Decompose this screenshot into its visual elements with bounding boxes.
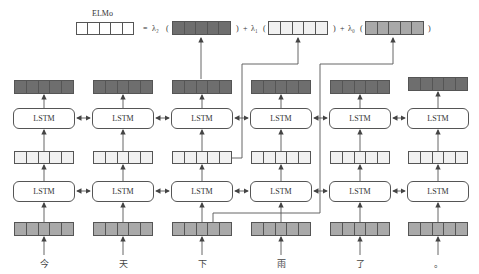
hidden-state-vector — [93, 151, 153, 164]
hidden-state-vector — [408, 151, 468, 164]
upper-lstm-cell: LSTM — [171, 108, 233, 129]
hidden-state-vector — [251, 151, 311, 164]
input-embedding-vector — [251, 222, 311, 236]
top-output-vector — [14, 80, 74, 94]
top-output-vector — [93, 80, 153, 94]
input-token: 天 — [119, 257, 128, 270]
top-output-vector — [408, 77, 468, 91]
hidden-state-vector — [172, 151, 232, 164]
lambda-0-coefficient: λ₀ — [348, 24, 355, 33]
input-token: 今 — [40, 257, 49, 270]
upper-lstm-cell: LSTM — [250, 108, 312, 129]
input-token: 下 — [198, 257, 207, 270]
input-token: 雨 — [277, 257, 286, 270]
input-embedding-vector — [172, 222, 232, 236]
elmo-label: ELMo — [92, 9, 113, 18]
plus-sign-2: + — [340, 24, 345, 33]
lower-lstm-cell: LSTM — [250, 181, 312, 202]
upper-lstm-cell: LSTM — [92, 108, 154, 129]
lower-lstm-cell: LSTM — [92, 181, 154, 202]
input-embedding-vector — [330, 222, 390, 236]
upper-lstm-cell: LSTM — [13, 108, 75, 129]
input-token: 了 — [356, 257, 365, 270]
lower-lstm-cell: LSTM — [171, 181, 233, 202]
lower-lstm-cell: LSTM — [329, 181, 391, 202]
open-paren-2: ( — [263, 24, 266, 33]
layer-0-vector — [365, 21, 424, 35]
close-paren-1: ) — [236, 24, 239, 33]
open-paren-3: ( — [360, 24, 363, 33]
input-embedding-vector — [14, 222, 74, 236]
top-output-vector — [172, 80, 232, 94]
input-embedding-vector — [93, 222, 153, 236]
close-paren-2: ) — [333, 24, 336, 33]
close-paren-3: ) — [428, 24, 431, 33]
equals-sign: = — [143, 24, 148, 33]
upper-lstm-cell: LSTM — [407, 108, 469, 129]
layer-1-vector — [268, 21, 328, 35]
open-paren-1: ( — [166, 24, 169, 33]
lower-lstm-cell: LSTM — [13, 181, 75, 202]
upper-lstm-cell: LSTM — [329, 108, 391, 129]
elmo-vector — [76, 22, 134, 35]
lower-lstm-cell: LSTM — [407, 181, 469, 202]
elmo-diagram: ELMo = λ₂ ( ) + λ₁ ( ) + λ₀ ( ) LSTMLSTM… — [0, 0, 479, 274]
input-token: 。 — [434, 257, 443, 270]
top-output-vector — [251, 80, 311, 94]
plus-sign-1: + — [243, 24, 248, 33]
lambda-1-coefficient: λ₁ — [251, 24, 258, 33]
top-output-vector — [330, 80, 390, 94]
hidden-state-vector — [14, 151, 74, 164]
layer-2-vector — [172, 21, 231, 35]
hidden-state-vector — [330, 151, 390, 164]
lambda-2-coefficient: λ₂ — [152, 24, 159, 33]
input-embedding-vector — [408, 222, 468, 236]
